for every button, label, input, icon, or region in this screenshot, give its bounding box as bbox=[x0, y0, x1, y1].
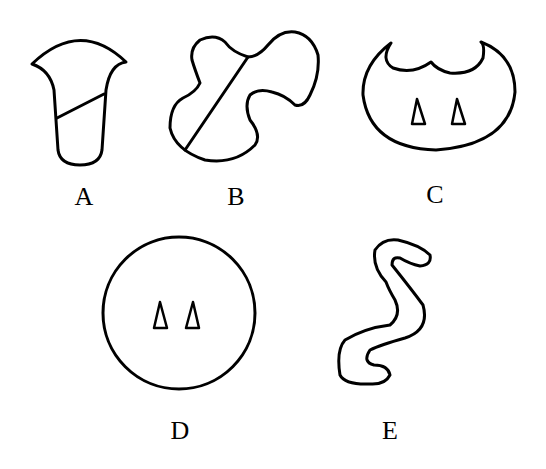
shape-e bbox=[339, 240, 431, 384]
label-e: E bbox=[370, 418, 410, 444]
triangle-icon bbox=[412, 99, 425, 124]
label-b: B bbox=[216, 184, 256, 210]
label-c: C bbox=[415, 182, 455, 208]
shapes-diagram bbox=[0, 0, 546, 469]
triangle-icon bbox=[154, 302, 167, 328]
label-d: D bbox=[160, 418, 200, 444]
shape-a bbox=[32, 40, 126, 165]
label-a: A bbox=[64, 184, 104, 210]
shape-d bbox=[103, 237, 255, 389]
shape-c bbox=[363, 42, 515, 150]
shape-b bbox=[170, 32, 318, 161]
triangle-icon bbox=[452, 99, 465, 124]
triangle-icon bbox=[186, 302, 199, 328]
